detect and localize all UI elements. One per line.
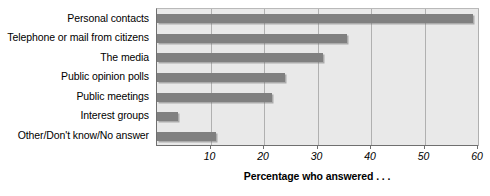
bar-row: [157, 107, 478, 127]
bar-row: [157, 87, 478, 107]
tick-mark: [477, 146, 478, 149]
tick-label: 20: [257, 150, 269, 162]
x-axis-title: Percentage who answered . . .: [156, 170, 478, 182]
tick-mark: [370, 146, 371, 149]
tick-label: 60: [471, 150, 483, 162]
bar: [157, 112, 178, 121]
bar: [157, 93, 272, 102]
tick-label: 40: [364, 150, 376, 162]
bar-row: [157, 29, 478, 49]
category-label: Interest groups: [0, 106, 152, 126]
tick-label: 30: [311, 150, 323, 162]
category-label: Telephone or mail from citizens: [0, 28, 152, 48]
bar-row: [157, 68, 478, 88]
tick-mark: [317, 146, 318, 149]
tick-label: 10: [204, 150, 216, 162]
tick-mark: [424, 146, 425, 149]
category-label: Public meetings: [0, 86, 152, 106]
bar: [157, 14, 473, 23]
x-axis-ticks: 102030405060: [156, 146, 478, 150]
bar: [157, 132, 216, 141]
category-label: The media: [0, 47, 152, 67]
tick-mark: [263, 146, 264, 149]
tick-mark: [210, 146, 211, 149]
category-axis-labels: Personal contacts Telephone or mail from…: [0, 8, 152, 145]
bar-row: [157, 126, 478, 146]
bar-row: [157, 48, 478, 68]
bar: [157, 53, 323, 62]
bar-row: [157, 9, 478, 29]
bars-layer: [157, 9, 478, 146]
gridline: [478, 9, 479, 146]
tick-label: 50: [418, 150, 430, 162]
category-label: Other/Don't know/No answer: [0, 125, 152, 145]
category-label: Public opinion polls: [0, 67, 152, 87]
category-label: Personal contacts: [0, 8, 152, 28]
plot-area: [156, 8, 479, 146]
bar-chart: Personal contacts Telephone or mail from…: [0, 0, 490, 196]
bar: [157, 34, 347, 43]
bar: [157, 73, 285, 82]
